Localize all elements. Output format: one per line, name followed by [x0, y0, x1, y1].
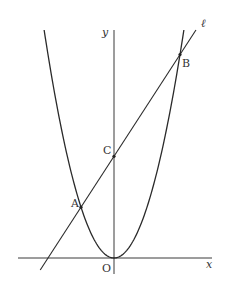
line-l — [40, 30, 196, 270]
x-axis-label: x — [206, 258, 213, 271]
line-l-label: ℓ — [201, 17, 206, 30]
point-a-label: A — [70, 197, 80, 210]
point-b-label: B — [182, 57, 190, 70]
point-a-marker — [79, 206, 82, 209]
point-c-marker — [112, 155, 115, 158]
graph-canvas: y x O ℓ A B C — [0, 0, 228, 285]
coordinate-figure: y x O ℓ A B C — [0, 0, 228, 285]
point-c-label: C — [103, 144, 111, 157]
origin-label: O — [102, 262, 111, 275]
y-axis-label: y — [101, 26, 109, 39]
